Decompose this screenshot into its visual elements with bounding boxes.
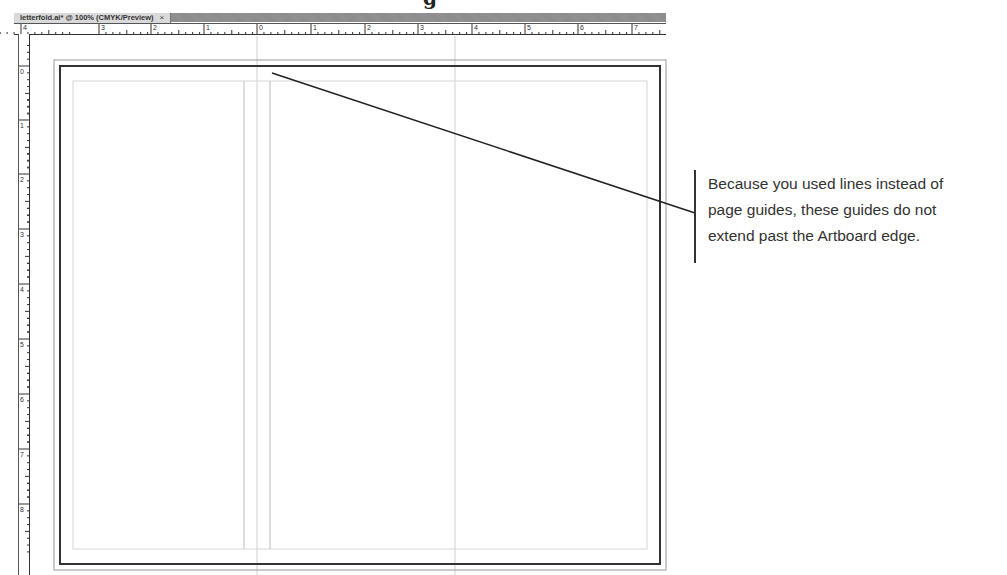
- ruler-label: 6: [580, 24, 584, 31]
- ruler-label: 1: [20, 122, 24, 129]
- ruler-label: 0: [259, 24, 263, 31]
- ruler-label: 7: [634, 24, 638, 31]
- margin-guide: [73, 81, 647, 549]
- ruler-label: 3: [20, 231, 24, 238]
- ruler-label: 1: [313, 24, 317, 31]
- artboard-canvas[interactable]: 432101234567012345678: [0, 0, 1007, 575]
- artboard-edge: [60, 66, 660, 564]
- ruler-label: 5: [20, 341, 24, 348]
- ruler-label: 6: [20, 396, 24, 403]
- ruler-label: 4: [474, 24, 478, 31]
- ruler-label: 5: [527, 24, 531, 31]
- ruler-label: 2: [153, 24, 157, 31]
- ruler-label: 1: [206, 24, 210, 31]
- annotation-line-2: page guides, these guides do not: [708, 197, 1007, 223]
- ruler-label: 2: [367, 24, 371, 31]
- ruler-label: 7: [20, 451, 24, 458]
- ruler-label: 4: [23, 24, 27, 31]
- ruler-label: 4: [20, 286, 24, 293]
- ruler-label: 3: [101, 24, 105, 31]
- ruler-label: 0: [20, 68, 24, 75]
- ruler-label: 8: [20, 506, 24, 513]
- annotation-line-1: Because you used lines instead of: [708, 171, 1007, 197]
- bleed-rect: [54, 60, 666, 570]
- annotation-line-3: extend past the Artboard edge.: [708, 223, 1007, 249]
- callout-leader-line: [272, 73, 695, 213]
- callout-bracket: [694, 170, 696, 263]
- ruler-label: 3: [420, 24, 424, 31]
- annotation-callout: Because you used lines instead of page g…: [708, 171, 1007, 249]
- ruler-label: 2: [20, 176, 24, 183]
